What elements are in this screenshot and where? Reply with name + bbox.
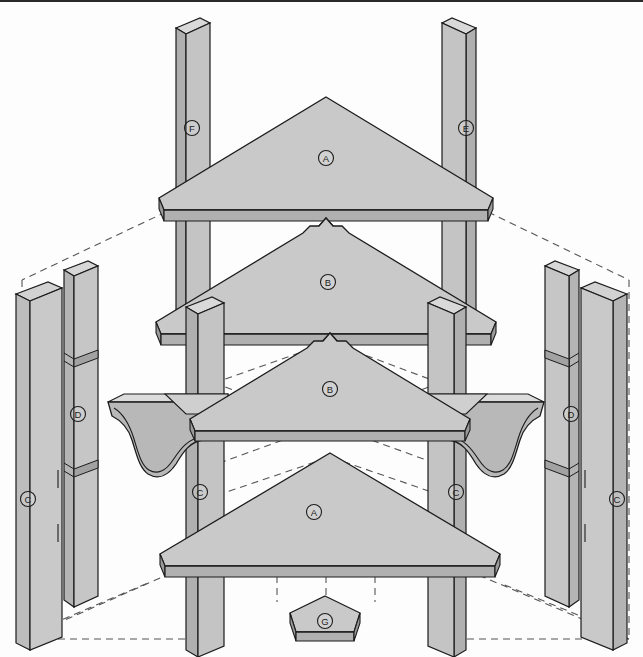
part-label-rear-right-post-E: E <box>459 121 474 136</box>
part-label-second-shelf-B: B <box>321 275 336 290</box>
front-left-post-C <box>186 297 224 657</box>
right-cleat-D <box>545 261 579 607</box>
part-label-third-shelf-B: B <box>323 382 338 397</box>
part-label-corner-foot-G: G <box>318 614 333 629</box>
part-label-outer-right-panel-C: C <box>610 492 625 507</box>
part-label-bottom-shelf-A: A <box>307 505 322 520</box>
part-label-rear-left-post-F: F <box>185 121 200 136</box>
part-label-front-left-post-C: C <box>193 485 208 500</box>
left-cleat-D <box>64 261 98 607</box>
part-label-top-shelf-A: A <box>319 151 334 166</box>
outer-left-panel-C <box>16 282 62 650</box>
outer-right-panel-C <box>581 282 627 650</box>
part-label-left-cleat-D: D <box>71 407 86 422</box>
part-label-outer-left-panel-C: C <box>21 492 36 507</box>
diagram-canvas: A B B A F E C D <box>0 2 643 657</box>
part-label-right-cleat-D: D <box>564 407 579 422</box>
exploded-assembly-diagram: A B B A F E C D <box>0 0 643 657</box>
front-right-post-C <box>428 297 466 657</box>
part-label-front-right-post-C: C <box>449 485 464 500</box>
